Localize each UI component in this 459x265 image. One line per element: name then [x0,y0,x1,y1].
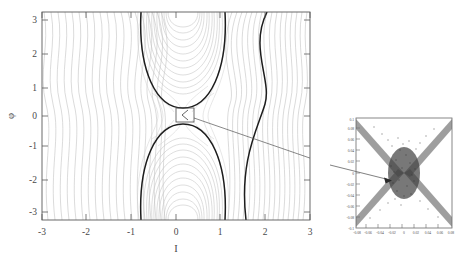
x-tick-label: 2 [263,227,268,237]
phase-space-figure: -3 -2 -1 0 1 2 3 3 2 1 0 -1 -2 -3 I φ [0,0,459,265]
x-tick-label: -2 [82,227,90,237]
inset-y-tick-label: 0.1 [350,118,355,122]
inset-x-tick-labels: -0.08 -0.06 -0.04 -0.02 0 0.02 0.04 0.06… [353,231,454,235]
y-tick-label: 0 [32,111,37,121]
inset-x-tick-label: -0.08 [353,231,361,235]
x-tick-label: -3 [38,227,46,237]
inset-y-tick-label: 0.08 [348,127,354,131]
inset-x-tick-label: -0.02 [388,231,396,235]
figure-canvas: -3 -2 -1 0 1 2 3 3 2 1 0 -1 -2 -3 I φ [0,0,459,265]
inset-y-tick-label: -0.06 [347,205,355,209]
inset-y-tick-label: -0.1 [348,227,354,231]
inset-y-tick-label: -0.04 [347,194,355,198]
inset-y-tick-label: -0.08 [347,216,355,220]
x-tick-label: -1 [127,227,135,237]
y-axis-title: φ [5,113,16,119]
inset-x-tick-label: 0.04 [425,231,431,235]
y-tick-label: 3 [32,15,37,25]
inset-y-tick-label: 0.02 [348,160,354,164]
scatter-core [388,147,420,199]
y-tick-label: -1 [29,141,37,151]
y-tick-label: 2 [32,49,37,59]
inset-y-tick-label: -0.02 [347,183,355,187]
inset-y-tick-label: 0.06 [348,138,354,142]
x-tick-label: 1 [218,227,223,237]
x-axis-title: I [174,243,178,254]
inset-x-tick-label: 0.02 [413,231,419,235]
inset-x-tick-label: 0 [403,231,405,235]
inset-x-tick-label: 0.06 [437,231,443,235]
y-tick-label: -2 [29,175,37,185]
x-tick-label: 0 [174,227,179,237]
y-tick-label: -3 [29,207,37,217]
inset-y-tick-label: 0 [352,172,354,176]
x-tick-label: 3 [308,227,313,237]
inset-x-tick-label: -0.04 [376,231,384,235]
inset-x-tick-label: 0.08 [448,231,454,235]
y-tick-label: 1 [32,83,37,93]
inset-y-tick-label: 0.04 [348,149,354,153]
inset-x-tick-label: -0.06 [364,231,372,235]
